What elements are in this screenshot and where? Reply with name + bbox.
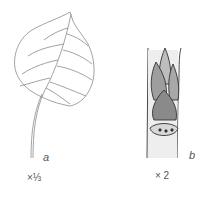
panel-a-scale: ×⅓ <box>27 173 41 183</box>
panel-a-label: a <box>43 152 49 163</box>
panel-b-scale: × 2 <box>155 171 169 181</box>
bud-drawing <box>147 48 181 158</box>
panel-b-label: b <box>189 150 195 161</box>
illustration <box>0 0 209 197</box>
leaf-drawing <box>15 12 95 158</box>
